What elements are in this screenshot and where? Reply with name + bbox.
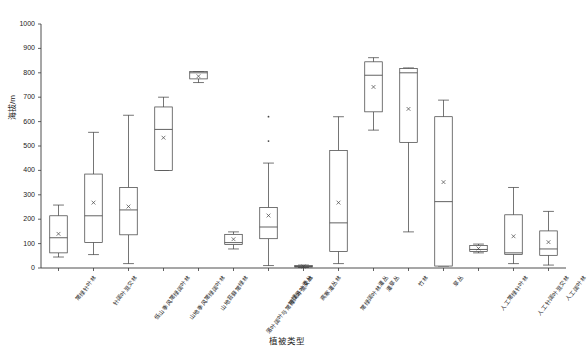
outlier-point	[268, 116, 270, 118]
box-iqr	[400, 68, 418, 142]
box-plot-item	[155, 97, 173, 170]
box-plot-item	[470, 244, 488, 253]
box-iqr	[435, 117, 453, 266]
box-iqr	[260, 207, 278, 238]
box-plot-item	[120, 115, 138, 263]
box-iqr	[120, 187, 138, 234]
box-plot-item	[50, 205, 68, 257]
box-plot-item	[365, 58, 383, 130]
box-iqr	[505, 215, 523, 255]
box-plot-item	[330, 117, 348, 264]
box-iqr	[155, 107, 173, 170]
box-iqr	[330, 150, 348, 251]
box-iqr	[540, 231, 558, 255]
box-iqr	[85, 174, 103, 242]
box-plot-item	[540, 211, 558, 265]
box-plot-item	[225, 232, 243, 249]
box-plot-item	[190, 72, 208, 83]
box-plot-item	[505, 187, 523, 263]
box-plot-item	[400, 68, 418, 232]
box-plot-item	[85, 132, 103, 254]
outlier-point	[268, 140, 270, 142]
box-plot-item	[260, 116, 278, 266]
box-plot-item	[435, 100, 453, 266]
